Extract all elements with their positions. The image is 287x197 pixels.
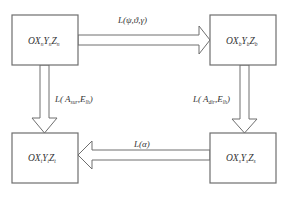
frame-label-top-right: OXbYbZb: [226, 36, 258, 47]
arrow-top-left-to-bottom-left: [32, 65, 57, 133]
edge-label-a-dir-e-lh: L( Adir,Elh): [192, 94, 230, 105]
edge-label-psi-theta-gamma: L(ψ,ϑ,γ): [117, 15, 147, 25]
frame-transformation-diagram: L(ψ,ϑ,γ) L( Asur,Elh) L( Adir,Elh) L(α) …: [0, 0, 287, 197]
edge-label-alpha: L(α): [133, 139, 150, 149]
arrow-top-right-to-bottom-right: [232, 65, 257, 133]
arrow-top-left-to-top-right: [78, 26, 210, 54]
edge-label-a-sur-e-lh: L( Asur,Elh): [54, 94, 93, 105]
frame-label-top-left: OXnYnZn: [28, 36, 60, 47]
frame-label-bottom-right: OXsYsZs: [226, 153, 256, 164]
frame-label-bottom-left: OXtYtZt: [28, 153, 56, 164]
